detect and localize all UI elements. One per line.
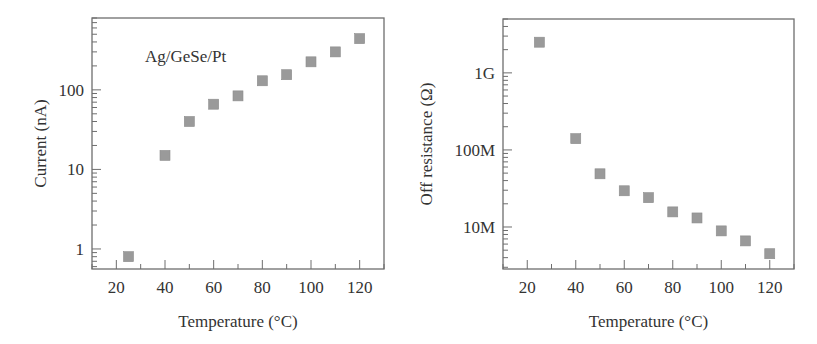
y-tick-label: 100M: [454, 141, 495, 160]
x-tick-label: 20: [108, 278, 125, 297]
x-tick-labels: 20406080100120: [108, 278, 373, 297]
data-point: [741, 236, 751, 246]
y-tick-labels: 110100: [59, 81, 85, 259]
data-point: [668, 207, 678, 217]
y-tick-label: 1G: [474, 64, 495, 83]
figure: 20406080100120 110100 Ag/GeSe/Pt Tempera…: [0, 0, 817, 344]
y-tick-labels: 10M100M1G: [454, 64, 495, 237]
y-tick-label: 10M: [463, 218, 495, 237]
x-tick-label: 20: [519, 278, 536, 297]
x-tick-label: 120: [757, 278, 783, 297]
data-point: [619, 186, 629, 196]
data-point: [330, 47, 340, 57]
x-tick-label: 40: [567, 278, 584, 297]
data-point: [355, 34, 365, 44]
x-tick-label: 80: [664, 278, 681, 297]
x-axis-label: Temperature (°C): [178, 312, 297, 331]
data-points: [534, 37, 774, 259]
data-point: [282, 70, 292, 80]
off-resistance-vs-temperature-chart: 20406080100120 10M100M1G Temperature (°C…: [417, 19, 794, 331]
x-tick-label: 100: [298, 278, 324, 297]
data-point: [716, 226, 726, 236]
data-point: [124, 252, 134, 262]
x-tick-labels: 20406080100120: [519, 278, 783, 297]
y-tick-label: 100: [59, 81, 85, 100]
y-tick-label: 10: [67, 160, 84, 179]
data-point: [534, 37, 544, 47]
x-tick-label: 60: [205, 278, 222, 297]
data-points: [124, 34, 365, 262]
x-tick-label: 100: [709, 278, 735, 297]
plot-frame: [503, 19, 794, 269]
data-point: [595, 169, 605, 179]
data-point: [692, 213, 702, 223]
data-point: [209, 99, 219, 109]
x-tick-label: 40: [157, 278, 174, 297]
data-point: [644, 193, 654, 203]
y-tick-label: 1: [76, 240, 85, 259]
x-tick-label: 120: [347, 278, 373, 297]
data-point: [233, 91, 243, 101]
y-axis-label: Off resistance (Ω): [417, 83, 436, 206]
y-axis-label: Current (nA): [31, 99, 50, 187]
data-point: [306, 57, 316, 67]
data-point: [184, 117, 194, 127]
x-tick-label: 60: [616, 278, 633, 297]
data-point: [257, 76, 267, 86]
x-tick-label: 80: [254, 278, 271, 297]
x-axis-label: Temperature (°C): [589, 312, 708, 331]
axis-ticks: [503, 19, 794, 269]
current-vs-temperature-chart: 20406080100120 110100 Ag/GeSe/Pt Tempera…: [31, 18, 384, 331]
data-point: [571, 134, 581, 144]
data-point: [765, 249, 775, 259]
data-point: [160, 150, 170, 160]
sample-annotation: Ag/GeSe/Pt: [145, 47, 227, 66]
